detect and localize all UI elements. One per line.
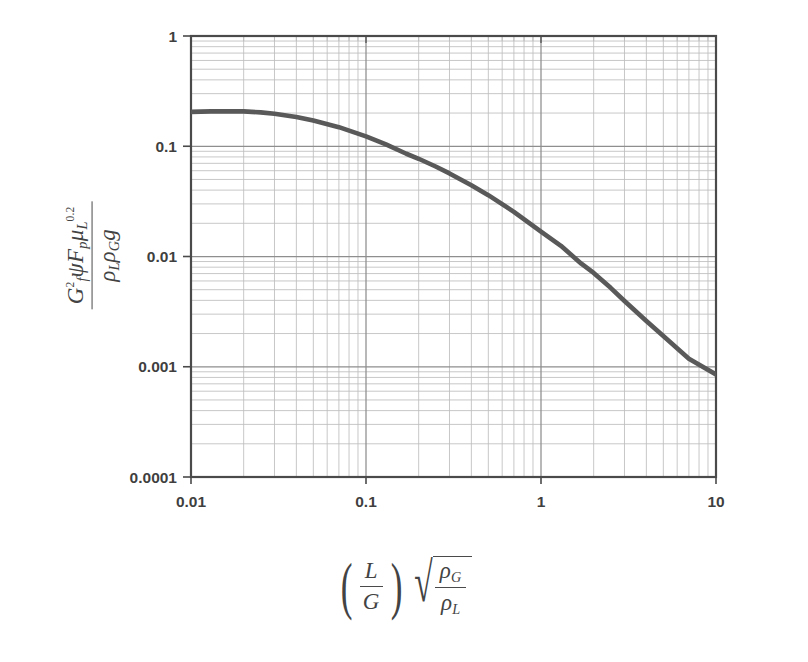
x-axis-title-inner: ( L G ) √ ρG ρL [336, 556, 473, 618]
y-axis-tick-labels: 10.10.010.0010.0001 [130, 28, 178, 486]
y-tick-label: 1 [168, 28, 177, 45]
x-axis-tick-labels: 0.010.1110 [176, 493, 725, 510]
square-root-icon: √ ρG ρL [408, 556, 472, 618]
paren-close: ) [390, 557, 402, 616]
paren-open: ( [340, 557, 352, 616]
x-axis-title: ( L G ) √ ρG ρL [0, 556, 808, 618]
y-tick-label: 0.01 [147, 248, 178, 265]
radicand: ρG ρL [433, 556, 473, 618]
chart-figure: G2fψFpμL0.2 ρLρGg 10.10.010.0010.0001 0.… [0, 0, 808, 662]
x-tick-label: 0.01 [176, 493, 207, 510]
x-axis-fraction-rho: ρG ρL [435, 559, 467, 618]
symbol-rho-G-num: ρG [435, 559, 467, 588]
x-tick-label: 1 [537, 493, 546, 510]
y-tick-label: 0.1 [155, 138, 177, 155]
x-axis-fraction-LG: L G [358, 559, 385, 615]
y-tick-label: 0.001 [138, 358, 177, 375]
rho-G-glyph: ρ [440, 558, 451, 583]
symbol-G: G [358, 587, 385, 615]
rho-G-subscript: G [451, 569, 462, 585]
radical-sign: √ [414, 559, 432, 621]
x-tick-label: 0.1 [355, 493, 377, 510]
x-tick-label: 10 [707, 493, 724, 510]
symbol-rho-L-den: ρL [436, 588, 465, 617]
rho-L-glyph: ρ [441, 590, 452, 615]
data-curve [191, 111, 716, 374]
symbol-L: L [360, 559, 383, 587]
rho-L-subscript: L [452, 601, 460, 617]
y-tick-label: 0.0001 [130, 469, 178, 486]
